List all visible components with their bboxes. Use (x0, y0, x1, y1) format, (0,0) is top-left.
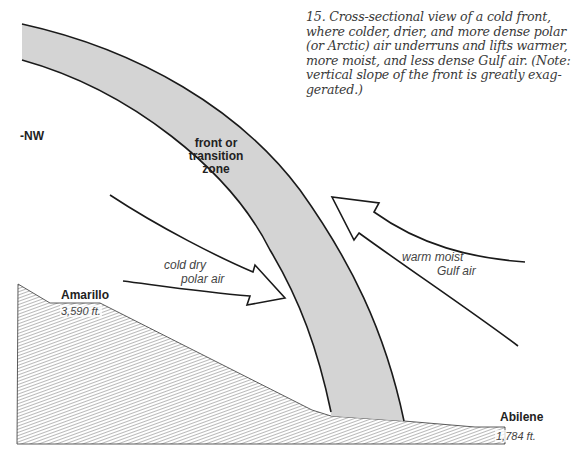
direction-label-nw: -NW (20, 130, 44, 143)
location-amarillo: Amarillo (61, 289, 109, 302)
caption-line: where colder, drier, and more dense pola… (306, 25, 576, 40)
figure-caption: 15. Cross-sectional view of a cold front… (306, 10, 576, 98)
warm-air-label-line2: Gulf air (437, 264, 476, 278)
caption-line: (or Arctic) air underruns and lifts warm… (306, 39, 576, 54)
elevation-amarillo: 3,590 ft. (60, 305, 102, 317)
caption-line: 15. Cross-sectional view of a cold front… (306, 10, 576, 25)
cold-air-label-line1: cold dry (164, 258, 206, 272)
elevation-abilene: 1,784 ft. (495, 430, 537, 442)
front-label: front or transition zone (170, 137, 262, 176)
caption-line: more moist, and less dense Gulf air. (No… (306, 54, 576, 69)
front-label-line: zone (170, 163, 262, 176)
caption-line: gerated.) (306, 83, 576, 98)
caption-line: vertical slope of the front is greatly e… (306, 68, 576, 83)
cold-front-diagram: 15. Cross-sectional view of a cold front… (0, 0, 578, 458)
location-abilene: Abilene (500, 411, 543, 424)
warm-air-label-line1: warm moist (402, 250, 463, 264)
cold-air-label-line2: polar air (181, 272, 224, 286)
